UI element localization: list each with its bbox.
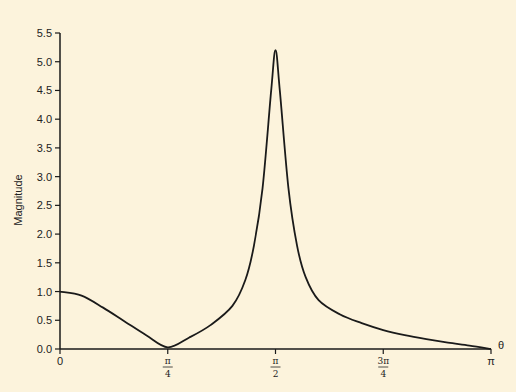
y-tick-label: 2.5 bbox=[37, 199, 52, 211]
x-tick-label-denominator: 2 bbox=[273, 369, 279, 379]
x-axis-title: θ bbox=[498, 339, 504, 351]
x-tick-label-denominator: 4 bbox=[165, 369, 171, 379]
y-tick-label: 2.0 bbox=[37, 228, 52, 240]
x-tick-label-numerator: π bbox=[273, 356, 279, 366]
y-tick-label: 4.5 bbox=[37, 84, 52, 96]
y-tick-label: 1.5 bbox=[37, 257, 52, 269]
magnitude-chart: 0.00.51.01.52.02.53.03.54.04.55.05.5 0π4… bbox=[0, 0, 516, 392]
y-axis: 0.00.51.01.52.02.53.03.54.04.55.05.5 bbox=[37, 27, 60, 355]
y-tick-label: 3.0 bbox=[37, 171, 52, 183]
y-tick-label: 4.0 bbox=[37, 113, 52, 125]
y-tick-label: 3.5 bbox=[37, 142, 52, 154]
magnitude-curve bbox=[60, 50, 491, 349]
x-tick-label: 0 bbox=[57, 355, 63, 367]
y-tick-label: 0.0 bbox=[37, 343, 52, 355]
x-tick-label: π bbox=[487, 355, 495, 367]
y-axis-title: Magnitude bbox=[12, 174, 24, 225]
y-tick-label: 0.5 bbox=[37, 314, 52, 326]
y-tick-label: 5.5 bbox=[37, 27, 52, 39]
y-tick-label: 1.0 bbox=[37, 286, 52, 298]
x-tick-label-numerator: 3π bbox=[377, 356, 389, 366]
x-tick-label-numerator: π bbox=[165, 356, 171, 366]
y-tick-label: 5.0 bbox=[37, 56, 52, 68]
x-axis: 0π4π23π4π bbox=[57, 349, 495, 379]
x-tick-label-denominator: 4 bbox=[380, 369, 386, 379]
